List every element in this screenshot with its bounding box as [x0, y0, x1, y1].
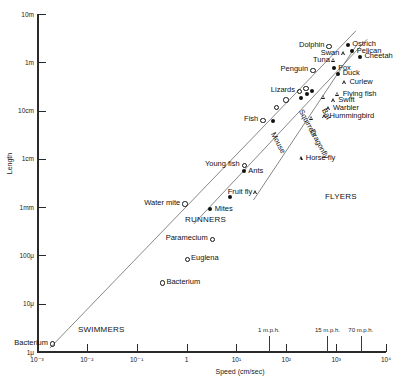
data-point-marker [336, 72, 340, 76]
x-axis-line [37, 351, 386, 353]
data-point-label: Mouse [269, 131, 288, 155]
y-tick-mark [39, 14, 46, 15]
mph-tick-mark [327, 336, 328, 352]
x-tick-mark [336, 344, 337, 352]
y-tick-label: 10μ [0, 300, 34, 307]
data-point-marker [297, 89, 302, 94]
y-axis-title: Length [6, 134, 13, 194]
data-point-marker [310, 89, 314, 93]
data-point-label: Flying fish [343, 90, 377, 98]
x-tick-label: 10⁻¹ [122, 356, 152, 363]
y-tick-mark [39, 207, 46, 208]
data-point-label: Swan [235, 49, 339, 57]
data-point-marker [242, 163, 247, 168]
group-label-flyers: FLYERS [325, 192, 357, 201]
data-point-marker [331, 98, 335, 102]
data-point-label: Bacterium [166, 278, 200, 286]
data-point-label: Ostrich [352, 40, 376, 48]
data-point-marker [254, 190, 258, 194]
x-tick-mark [386, 344, 387, 352]
data-point-marker [350, 49, 354, 53]
data-point-label: Dolphin [220, 41, 324, 49]
mph-tick-label: 1 m.p.h. [249, 327, 289, 334]
data-point-label: Ants [248, 167, 263, 175]
chart-root: 10m1m10cm1cm1mm100μ10μ1μ 10⁻³10⁻²10⁻¹110… [0, 0, 407, 389]
y-tick-label: 10cm [0, 107, 34, 114]
x-tick-mark [87, 344, 88, 352]
data-point-marker [242, 169, 246, 173]
data-point-marker [160, 280, 165, 285]
y-tick-mark [39, 62, 46, 63]
y-tick-mark [39, 255, 46, 256]
data-point-marker [305, 92, 309, 96]
data-point-marker [299, 156, 303, 160]
x-tick-label: 10⁻³ [22, 356, 52, 363]
x-tick-label: 10¹ [221, 356, 251, 363]
data-point-marker [343, 80, 347, 84]
y-tick-label: 1m [0, 59, 34, 66]
data-point-label: Bacterium [0, 339, 48, 347]
y-tick-mark [39, 159, 46, 160]
data-point-marker [341, 51, 345, 55]
x-tick-mark [286, 344, 287, 352]
data-point-label: Paramecium [104, 234, 208, 242]
data-point-marker [346, 43, 350, 47]
mph-tick-mark [269, 336, 270, 352]
data-point-label: Fish [154, 115, 258, 123]
data-point-marker [332, 66, 336, 70]
data-point-marker [210, 237, 215, 242]
y-tick-label: 10m [0, 11, 34, 18]
x-tick-label: 10² [271, 356, 301, 363]
data-point-marker [208, 207, 212, 211]
data-point-label: Mites [215, 205, 233, 213]
data-point-marker [260, 118, 265, 123]
data-point-label: Water mite [76, 199, 180, 207]
data-point-label: Euglena [191, 254, 219, 262]
data-point-marker [283, 97, 288, 102]
y-tick-mark [39, 304, 46, 305]
y-tick-mark [39, 352, 46, 353]
x-tick-label: 1 [172, 356, 202, 363]
y-tick-mark [39, 111, 46, 112]
data-point-label: Lizards [191, 86, 295, 94]
data-point-label: Duck [343, 69, 360, 77]
data-point-marker [331, 58, 335, 62]
data-point-label: Young fish [136, 160, 240, 168]
data-point-label: Penguin [204, 65, 308, 73]
x-tick-mark [187, 344, 188, 352]
data-point-marker [274, 105, 279, 110]
x-tick-mark [137, 344, 138, 352]
mph-tick-mark [361, 336, 362, 352]
data-point-marker [303, 86, 308, 91]
group-label-swimmers: SWIMMERS [78, 325, 125, 334]
data-point-marker [321, 95, 325, 99]
x-tick-label: 10⁻² [72, 356, 102, 363]
data-point-marker [299, 96, 303, 100]
data-point-marker [182, 201, 187, 206]
y-tick-label: 1mm [0, 204, 34, 211]
x-tick-label: 10³ [321, 356, 351, 363]
y-tick-label: 100μ [0, 252, 34, 259]
x-tick-label: 10⁴ [371, 356, 401, 363]
data-point-marker [310, 68, 315, 73]
data-point-marker [50, 341, 55, 346]
data-point-marker [185, 257, 190, 262]
data-point-label: Warbler [333, 104, 359, 112]
group-label-runners: RUNNERS [185, 215, 226, 224]
data-point-label: Curlew [349, 78, 372, 86]
data-point-marker [271, 119, 275, 123]
y-tick-label: 1μ [0, 349, 34, 356]
y-axis-line [37, 14, 39, 353]
mph-tick-label: 70 m.p.h. [341, 327, 381, 334]
x-tick-mark [236, 344, 237, 352]
data-point-label: Hummingbird [330, 112, 375, 120]
data-point-label: Fruit fly [148, 188, 252, 196]
x-axis-title: Speed (cm/sec) [180, 368, 300, 375]
data-point-marker [358, 55, 362, 59]
